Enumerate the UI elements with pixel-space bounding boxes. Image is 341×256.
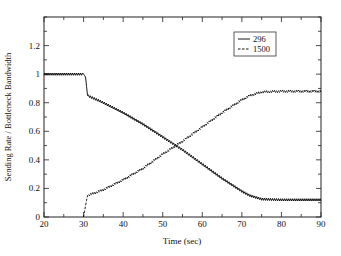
plot-frame [44, 17, 321, 217]
x-tick-label: 50 [158, 219, 168, 229]
legend-label-1500: 1500 [253, 44, 270, 54]
y-tick-label: 0 [36, 212, 41, 222]
y-tick-label: 0.8 [29, 98, 41, 108]
y-tick-label: 0.4 [29, 155, 41, 165]
plot-series [44, 73, 321, 217]
legend-label-296: 296 [253, 34, 266, 44]
series-line-1500 [84, 90, 321, 217]
y-tick-label: 1.2 [29, 41, 40, 51]
x-tick-label: 30 [79, 219, 89, 229]
y-axis-label: Sending Rate / Bottleneck Bandwidth [3, 52, 13, 181]
x-tick-label: 90 [317, 219, 327, 229]
y-tick-label: 0.6 [29, 126, 41, 136]
x-tick-label: 40 [119, 219, 129, 229]
legend: 2961500 [234, 32, 276, 56]
line-chart: 203040506070809000.20.40.60.811.2 296150… [0, 0, 341, 256]
x-tick-label: 80 [277, 219, 287, 229]
x-tick-label: 20 [40, 219, 50, 229]
plot-axes: 203040506070809000.20.40.60.811.2 [29, 17, 326, 229]
x-axis-label: Time (sec) [163, 236, 201, 246]
x-tick-label: 60 [198, 219, 208, 229]
x-tick-label: 70 [237, 219, 247, 229]
y-tick-label: 0.2 [29, 183, 40, 193]
chart-canvas: 203040506070809000.20.40.60.811.2 296150… [0, 0, 341, 256]
y-tick-label: 1 [36, 69, 41, 79]
